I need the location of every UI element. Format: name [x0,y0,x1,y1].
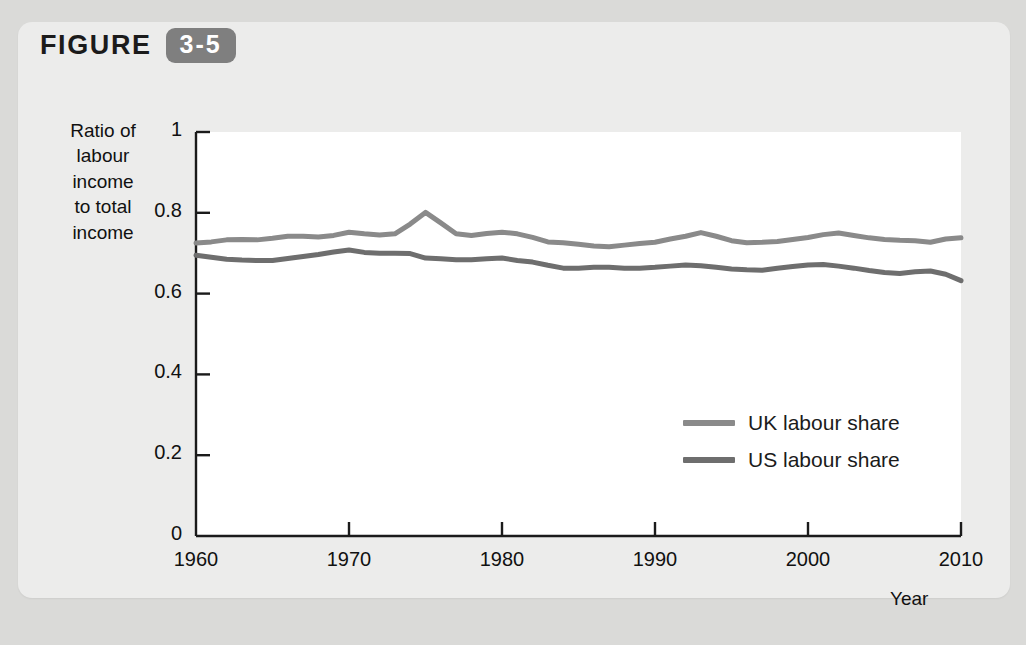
y-tick-label: 0.4 [122,360,182,383]
y-axis-title-line: income [48,220,158,245]
y-tick-label: 0.8 [122,199,182,222]
chart-legend: UK labour shareUS labour share [683,404,900,478]
x-axis-title: Year [890,588,928,610]
legend-swatch-icon [683,457,735,463]
x-tick-label: 2010 [916,548,1006,571]
legend-swatch-icon [683,420,735,426]
y-tick-label: 0 [122,522,182,545]
legend-label: UK labour share [748,411,900,435]
x-tick-label: 1960 [151,548,241,571]
y-tick-label: 0.2 [122,441,182,464]
x-tick-label: 1990 [610,548,700,571]
x-tick-label: 1970 [304,548,394,571]
y-tick-label: 0.6 [122,280,182,303]
figure-header: FIGURE 3-5 [40,28,236,63]
legend-item[interactable]: US labour share [683,441,900,478]
legend-item[interactable]: UK labour share [683,404,900,441]
y-axis-title-line: labour [48,143,158,168]
page-background: the purpose of measuring the functional … [0,0,1026,645]
x-tick-label: 2000 [763,548,853,571]
figure-number-badge: 3-5 [166,28,236,63]
y-axis-title-line: income [48,169,158,194]
y-tick-label: 1 [122,118,182,141]
x-tick-label: 1980 [457,548,547,571]
legend-label: US labour share [748,448,900,472]
figure-label: FIGURE [40,30,152,61]
